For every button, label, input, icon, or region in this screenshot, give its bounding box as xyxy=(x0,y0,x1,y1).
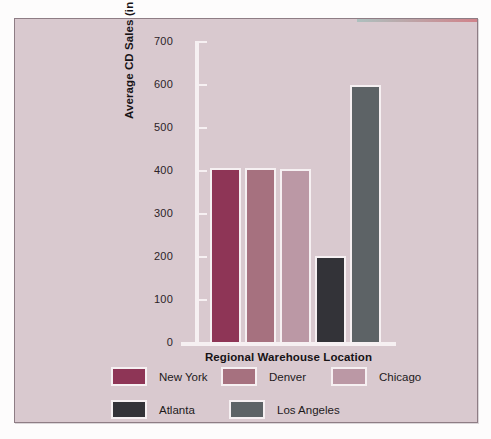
y-tick-mark xyxy=(199,127,207,129)
y-tick-mark xyxy=(199,256,207,258)
y-tick-mark xyxy=(199,84,207,86)
y-tick-label: 300 xyxy=(154,207,173,219)
chart-legend: New YorkDenverChicagoAtlantaLos Angeles xyxy=(111,367,441,433)
legend-swatch xyxy=(331,367,367,386)
scan-color-tint xyxy=(357,19,477,22)
legend-swatch xyxy=(111,400,147,419)
y-tick-mark xyxy=(199,213,207,215)
legend-item-denver: Denver xyxy=(221,367,331,386)
legend-row: AtlantaLos Angeles xyxy=(111,400,441,419)
legend-item-atlanta: Atlanta xyxy=(111,400,229,419)
y-tick-mark xyxy=(199,170,207,172)
legend-swatch xyxy=(111,367,147,386)
legend-label: Atlanta xyxy=(159,404,195,416)
y-tick-label: 500 xyxy=(154,121,173,133)
legend-item-chicago: Chicago xyxy=(331,367,441,386)
y-tick-label: 200 xyxy=(154,250,173,262)
legend-item-los-angeles: Los Angeles xyxy=(229,400,347,419)
legend-item-new-york: New York xyxy=(111,367,221,386)
chart-panel: 0100200300400500600700 Average CD Sales … xyxy=(14,18,478,423)
y-tick-mark xyxy=(199,41,207,43)
y-axis-title: Average CD Sales (in thousands) xyxy=(123,0,135,119)
bar-atlanta xyxy=(315,256,346,342)
legend-swatch xyxy=(229,400,265,419)
y-tick-mark xyxy=(199,299,207,301)
y-tick-label: 600 xyxy=(154,78,173,90)
legend-swatch xyxy=(221,367,257,386)
legend-label: Denver xyxy=(269,371,306,383)
bar-new-york xyxy=(210,168,241,342)
y-tick-label: 0 xyxy=(167,336,173,348)
bar-chicago xyxy=(280,169,311,342)
legend-label: New York xyxy=(159,371,208,383)
scanned-page: 0100200300400500600700 Average CD Sales … xyxy=(0,0,491,439)
legend-row: New YorkDenverChicago xyxy=(111,367,441,386)
y-tick-label: 100 xyxy=(154,293,173,305)
x-axis-line xyxy=(181,342,396,346)
bar-denver xyxy=(245,168,276,342)
y-tick-mark xyxy=(199,342,207,344)
y-tick-label: 700 xyxy=(154,35,173,47)
bar-los-angeles xyxy=(350,85,381,342)
plot-area: 0100200300400500600700 xyxy=(181,41,396,346)
bar-group xyxy=(210,41,390,342)
y-tick-label: 400 xyxy=(154,164,173,176)
legend-label: Chicago xyxy=(379,371,421,383)
x-axis-title: Regional Warehouse Location xyxy=(181,351,396,363)
legend-label: Los Angeles xyxy=(277,404,340,416)
